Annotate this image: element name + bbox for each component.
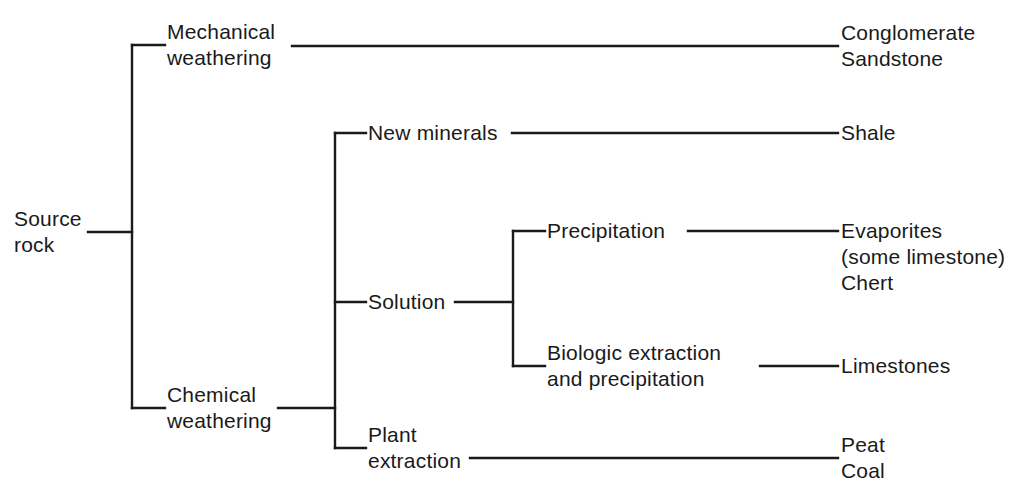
node-mechanical-weathering: Mechanicalweathering [167, 19, 275, 71]
product-shale: Shale [841, 120, 896, 146]
product-evaporites-line1: Evaporites [841, 219, 942, 242]
product-evaporites-line2: (some limestone) [841, 245, 1005, 268]
node-precipitation-line1: Precipitation [547, 219, 665, 242]
product-conglomerate: Conglomerate [841, 21, 975, 44]
node-mechanical-weathering-line1: Mechanical [167, 20, 275, 43]
node-new-minerals: New minerals [368, 120, 498, 146]
product-evaporites: Evaporites(some limestone)Chert [841, 218, 1005, 296]
node-biologic-extraction-line2: and precipitation [547, 367, 705, 390]
node-plant-extraction-line2: extraction [368, 449, 461, 472]
node-precipitation: Precipitation [547, 218, 665, 244]
node-chemical-weathering-line1: Chemical [167, 383, 256, 406]
node-plant-extraction-line1: Plant [368, 423, 417, 446]
node-mechanical-weathering-line2: weathering [167, 46, 272, 69]
node-solution: Solution [368, 289, 446, 315]
node-chemical-weathering-line2: weathering [167, 409, 272, 432]
product-sandstone: Sandstone [841, 47, 943, 70]
product-clastics: ConglomerateSandstone [841, 20, 975, 72]
node-source-rock-line1: Source [14, 207, 82, 230]
product-limestones-line1: Limestones [841, 354, 950, 377]
node-biologic-extraction: Biologic extractionand precipitation [547, 340, 721, 392]
node-plant-extraction: Plantextraction [368, 422, 461, 474]
node-source-rock: Sourcerock [14, 206, 82, 258]
tree-diagram: Sourcerock Mechanicalweathering Chemical… [0, 0, 1035, 501]
product-limestones: Limestones [841, 353, 950, 379]
product-coal: Coal [841, 459, 885, 482]
node-biologic-extraction-line1: Biologic extraction [547, 341, 721, 364]
product-chert: Chert [841, 271, 893, 294]
product-shale-line1: Shale [841, 121, 896, 144]
node-source-rock-line2: rock [14, 233, 54, 256]
node-solution-line1: Solution [368, 290, 446, 313]
product-peat: Peat [841, 433, 885, 456]
product-organics: PeatCoal [841, 432, 885, 484]
node-chemical-weathering: Chemicalweathering [167, 382, 272, 434]
node-new-minerals-line1: New minerals [368, 121, 498, 144]
